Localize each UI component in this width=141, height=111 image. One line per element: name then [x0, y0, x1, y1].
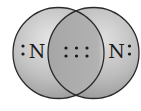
electron-dot	[85, 46, 88, 49]
electron-dot	[21, 44, 24, 47]
electron-dot	[128, 52, 131, 55]
electron-dot	[85, 54, 88, 57]
electron-dot	[128, 44, 131, 47]
left-atom-symbol: N	[29, 40, 46, 62]
electron-dot	[21, 52, 24, 55]
right-atom-symbol: N	[108, 40, 125, 62]
electron-dot	[75, 54, 78, 57]
electron-dot	[64, 46, 67, 49]
electron-dot	[75, 46, 78, 49]
electron-dot	[64, 54, 67, 57]
n2-lewis-overlap-diagram: N N	[0, 0, 141, 111]
